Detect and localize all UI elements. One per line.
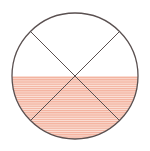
fraction-circle-svg [0,0,150,151]
fraction-circle-figure [0,0,150,151]
shaded-region [0,76,150,151]
